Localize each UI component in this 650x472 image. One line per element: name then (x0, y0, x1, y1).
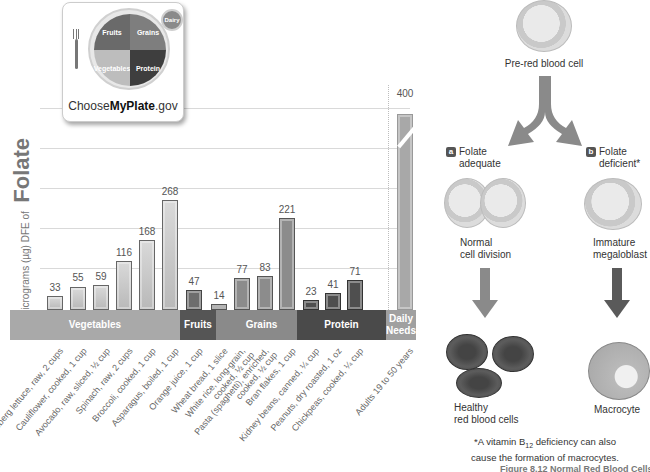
figure-caption: Figure 8.12 Normal Red Blood Cells with (500, 464, 650, 472)
bar-pasta (257, 276, 273, 310)
bar-bran-flakes (279, 218, 295, 310)
badge-a: a (446, 147, 456, 157)
plate-fruits: Fruits (94, 14, 130, 50)
branch-b-line2: deficient* (599, 158, 640, 169)
footnote-part2: deficiency can also (533, 436, 616, 447)
bar-value: 14 (204, 290, 234, 301)
fork-icon (73, 29, 79, 69)
gridline (40, 228, 410, 229)
bar-kidney-beans (303, 300, 319, 310)
x-tick-label: Adults 19 to 50 years (354, 346, 416, 417)
healthy-rbc (492, 336, 534, 372)
branch-a-line2: adequate (459, 158, 501, 169)
bar-avocado (93, 285, 109, 310)
bar-value: 221 (272, 204, 302, 215)
badge-b: b (586, 147, 596, 157)
bar-orange-juice (186, 290, 202, 310)
dividing-cell-right (480, 178, 526, 228)
axis-break-icon (397, 126, 417, 148)
y-axis-label: Micrograms (µg) DFE of Folate (9, 138, 35, 318)
megaloblast-line2: megaloblast (593, 249, 647, 261)
category-fruits: Fruits (180, 310, 216, 340)
bar-cauliflower (70, 287, 86, 310)
daily-label-line1: Daily (386, 313, 416, 325)
bar-peanuts (325, 293, 341, 310)
footnote-subscript: 12 (525, 442, 533, 449)
bar-value: 33 (40, 282, 70, 293)
megaloblast-line1: Immature (593, 237, 647, 249)
folate-chart: Micrograms (µg) DFE of Folate 33 55 59 1… (0, 0, 420, 472)
bar-value: 116 (109, 247, 139, 258)
bar-value: 47 (179, 276, 209, 287)
daily-label-line2: Needs (386, 325, 416, 337)
normal-division-line2: cell division (460, 249, 511, 261)
category-grains: Grains (216, 310, 307, 340)
healthy-rbc (446, 334, 488, 370)
myplate-logo: Fruits Grains Vegetables Protein Dairy C… (62, 2, 184, 122)
footnote: *A vitamin B12 deficiency can also cause… (460, 436, 630, 464)
logo-wordmark: ChooseMyPlate.gov (63, 99, 183, 113)
branch-a-line1: Folate (459, 146, 487, 157)
bar-value: 400 (390, 88, 420, 99)
wordmark-bold: MyPlate (110, 99, 155, 113)
arrow-down-icon (472, 268, 498, 320)
rbc-diagram: Pre-red blood cell aFolate adequate bFol… (420, 0, 650, 472)
megaloblast-cell (584, 178, 642, 230)
bar-daily-needs-adults (397, 114, 413, 310)
branch-b-line1: Folate (599, 146, 627, 157)
bar-value: 71 (340, 266, 370, 277)
plate-icon: Fruits Grains Vegetables Protein (88, 8, 170, 90)
bar-asparagus (162, 200, 178, 310)
arrow-down-icon (604, 268, 630, 320)
pre-red-blood-cell-label: Pre-red blood cell (492, 58, 596, 70)
footnote-line2: cause the formation of macrocytes. (460, 452, 630, 464)
normal-division-label: Normal cell division (460, 237, 511, 261)
category-vegetables: Vegetables (10, 310, 180, 340)
healthy-rbc (456, 368, 502, 398)
category-protein: Protein (297, 310, 386, 340)
wordmark-suffix: .gov (155, 99, 178, 113)
branch-b-label: bFolate deficient* (586, 146, 640, 170)
healthy-rbc-line1: Healthy (454, 402, 518, 414)
branch-a-label: aFolate adequate (446, 146, 501, 170)
healthy-rbc-line2: red blood cells (454, 414, 518, 426)
split-arrow-icon (500, 76, 590, 148)
bar-broccoli (139, 240, 155, 310)
gridline (40, 148, 410, 149)
bar-spinach (116, 261, 132, 310)
bar-value: 59 (86, 271, 116, 282)
bar-value: 41 (318, 279, 348, 290)
category-daily-needs: Daily Needs (386, 310, 416, 340)
megaloblast-label: Immature megaloblast (593, 237, 647, 261)
plate-vegetables: Vegetables (94, 50, 130, 86)
bar-value: 168 (132, 226, 162, 237)
gridline (40, 188, 410, 189)
plate-protein: Protein (130, 50, 166, 86)
macrocyte-cell (588, 342, 650, 400)
footnote-part1: *A vitamin B (474, 436, 525, 447)
bar-value: 268 (155, 186, 185, 197)
healthy-rbc-label: Healthy red blood cells (454, 402, 518, 426)
bar-chickpeas (347, 280, 363, 310)
daily-needs-divider (388, 85, 389, 310)
pre-red-blood-cell (516, 0, 572, 52)
plate-dairy: Dairy (161, 9, 183, 31)
y-axis-label-small: Micrograms (µg) DFE of (20, 211, 31, 318)
bar-white-rice (234, 278, 250, 310)
macrocyte-label: Macrocyte (594, 404, 640, 416)
y-axis-label-big: Folate (9, 138, 34, 203)
bar-iceberg-lettuce (47, 296, 63, 310)
normal-division-line1: Normal (460, 237, 511, 249)
bar-value: 83 (250, 262, 280, 273)
wordmark-prefix: Choose (68, 99, 109, 113)
